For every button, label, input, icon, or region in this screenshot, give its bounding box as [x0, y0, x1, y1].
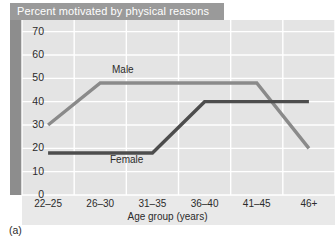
y-tick-50: 50 — [24, 71, 44, 83]
figure-container: Percent motivated by physical reasons 01… — [0, 0, 335, 244]
y-tick-10: 10 — [24, 165, 44, 177]
y-tick-60: 60 — [24, 48, 44, 60]
x-axis-title: Age group (years) — [0, 211, 335, 222]
x-tick-3: 36–40 — [179, 198, 231, 209]
y-tick-40: 40 — [24, 95, 44, 107]
x-tick-2: 31–35 — [126, 198, 178, 209]
x-tick-1: 26–30 — [74, 198, 126, 209]
y-tick-20: 20 — [24, 141, 44, 153]
series-label-male: Male — [112, 64, 134, 75]
x-tick-0: 22–25 — [22, 198, 74, 209]
x-tick-4: 41–45 — [231, 198, 283, 209]
y-tick-30: 30 — [24, 118, 44, 130]
series-label-female: Female — [110, 154, 143, 165]
y-tick-70: 70 — [24, 25, 44, 37]
x-tick-5: 46+ — [283, 198, 335, 209]
figure-caption: (a) — [9, 224, 22, 236]
